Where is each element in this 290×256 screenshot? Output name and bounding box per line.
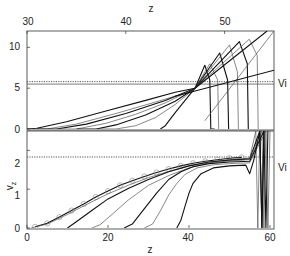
- top-ytick-0: 0: [14, 124, 20, 135]
- bottom-xtick-0: 0: [24, 232, 30, 243]
- bottom-xtick-20: 20: [102, 232, 114, 243]
- series-profile-3: [92, 131, 266, 228]
- bottom-vi-label: Vi: [278, 162, 287, 173]
- top-xtick-40: 40: [120, 16, 132, 27]
- chart-svg: z 30 40 50 10 5 0 Vi 0 20 40 60 z 2 1 0 …: [0, 0, 290, 256]
- series-profile-2: [27, 64, 219, 129]
- top-panel-plot: [27, 31, 274, 129]
- bottom-ytick-1: 1: [14, 190, 20, 201]
- bottom-xlabel: z: [148, 244, 153, 255]
- top-vi-label: Vi: [278, 78, 287, 89]
- series-profile-7: [160, 31, 267, 129]
- bottom-ylabel: vz: [4, 181, 17, 190]
- series-profile-1: [27, 65, 215, 129]
- series-profile-5: [144, 131, 270, 228]
- bottom-ytick-0: 0: [14, 223, 20, 234]
- series-profile-6: [177, 131, 264, 228]
- bottom-ytick-2: 2: [14, 158, 20, 169]
- top-xtick-30: 30: [22, 16, 34, 27]
- series-tangent-line: [205, 31, 274, 121]
- chart-figure: z 30 40 50 10 5 0 Vi 0 20 40 60 z 2 1 0 …: [0, 0, 290, 256]
- top-xtick-50: 50: [219, 16, 231, 27]
- top-xlabel: z: [149, 3, 154, 14]
- series-profile-3: [37, 53, 229, 129]
- series-slope-line: [175, 70, 274, 96]
- top-ytick-10: 10: [9, 41, 21, 52]
- series-profile-2: [68, 131, 264, 228]
- series-profile-5: [76, 42, 248, 129]
- bottom-xtick-40: 40: [182, 232, 194, 243]
- bottom-xtick-60: 60: [264, 232, 276, 243]
- bottom-panel-plot: [27, 131, 274, 229]
- top-ytick-5: 5: [14, 82, 20, 93]
